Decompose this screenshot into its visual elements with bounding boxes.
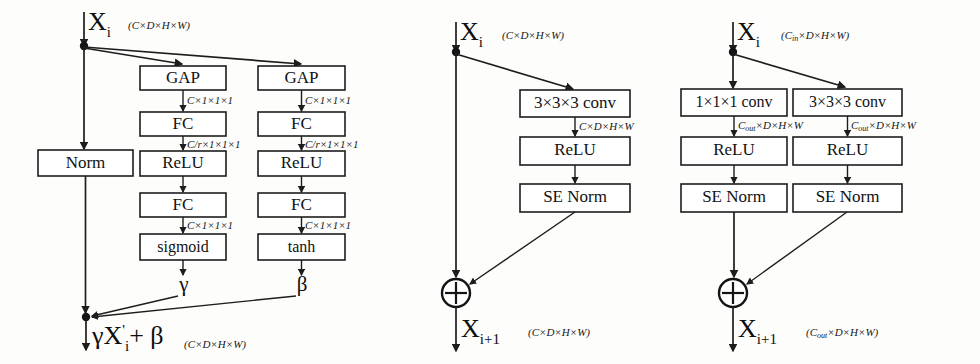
- beta-block-gap-label: GAP: [284, 68, 318, 87]
- gamma-symbol: γ: [178, 272, 188, 296]
- panel-residual-identity: Xi (C×D×H×W) 3×3×3 conv C×D×H×W ReLU SE …: [442, 17, 634, 351]
- panel2-fanout-edge: [456, 54, 573, 89]
- panel2-output-symbol: Xi+1: [461, 314, 500, 347]
- figure-root: Xi (C×D×H×W) Norm GAP C×1×1×1 FC C/r×1×1…: [0, 0, 980, 364]
- fanout-to-beta: [84, 47, 301, 64]
- panel3-block-relu-right-label: ReLU: [827, 140, 869, 159]
- gamma-block-sigmoid-label: sigmoid: [157, 238, 209, 256]
- gamma-edge-4-label: C×1×1×1: [187, 219, 233, 231]
- beta-block-fc2-label: FC: [291, 195, 312, 214]
- panel1-output-expr: γX'i+ β: [91, 321, 164, 354]
- beta-block-relu-label: ReLU: [281, 153, 323, 172]
- panel1-output-dims: (C×D×H×W): [184, 338, 246, 351]
- panel2-block-relu-label: ReLU: [554, 140, 596, 159]
- diagram-canvas: Xi (C×D×H×W) Norm GAP C×1×1×1 FC C/r×1×1…: [0, 0, 980, 364]
- beta-block-tanh-label: tanh: [288, 238, 316, 255]
- beta-edge-4-label: C×1×1×1: [305, 219, 351, 231]
- panel3-block-conv3-label: 3×3×3 conv: [809, 93, 886, 110]
- panel3-block-senorm-left-label: SE Norm: [702, 187, 766, 206]
- gamma-block-fc1-label: FC: [173, 114, 194, 133]
- panel3-block-conv1-label: 1×1×1 conv: [695, 93, 772, 110]
- panel3-block-senorm-right-label: SE Norm: [816, 187, 880, 206]
- panel1-input-dims: (C×D×H×W): [128, 19, 190, 32]
- beta-edge-2-label: C/r×1×1×1: [305, 138, 358, 150]
- panel3-right-merge-edge: [747, 212, 847, 284]
- gamma-edge-1-label: C×1×1×1: [187, 94, 233, 106]
- panel-residual-projection: Xi (Cin×D×H×W) 1×1×1 conv Cout×D×H×W ReL…: [681, 17, 917, 351]
- panel3-fanout-edge: [733, 54, 845, 87]
- panel3-right-edge-1-label: Cout×D×H×W: [851, 119, 917, 133]
- panel2-edge-1-label: C×D×H×W: [579, 120, 634, 132]
- panel2-block-conv3-label: 3×3×3 conv: [534, 93, 616, 112]
- gamma-edge-2-label: C/r×1×1×1: [187, 138, 240, 150]
- panel2-merge-edge: [470, 212, 575, 284]
- beta-merge-edge: [92, 296, 296, 317]
- panel-se-norm: Xi (C×D×H×W) Norm GAP C×1×1×1 FC C/r×1×1…: [38, 7, 358, 354]
- panel3-input-symbol: Xi: [737, 17, 760, 50]
- panel3-block-relu-left-label: ReLU: [713, 140, 755, 159]
- panel1-input-symbol: Xi: [88, 7, 111, 40]
- panel3-left-edge-1-label: Cout×D×H×W: [738, 119, 804, 133]
- gamma-block-fc2-label: FC: [173, 195, 194, 214]
- panel2-input-dims: (C×D×H×W): [502, 29, 564, 42]
- panel3-output-symbol: Xi+1: [738, 314, 777, 347]
- gamma-block-gap-label: GAP: [166, 68, 200, 87]
- beta-symbol: β: [297, 272, 308, 296]
- block-norm-label: Norm: [66, 153, 106, 172]
- panel3-output-dims: (Cout×D×H×W): [806, 326, 879, 340]
- gamma-block-relu-label: ReLU: [162, 153, 204, 172]
- beta-edge-1-label: C×1×1×1: [305, 94, 351, 106]
- beta-block-fc1-label: FC: [291, 114, 312, 133]
- panel2-output-dims: (C×D×H×W): [528, 326, 590, 339]
- panel3-input-dims: (Cin×D×H×W): [781, 29, 850, 43]
- panel2-block-senorm-label: SE Norm: [543, 187, 607, 206]
- panel2-input-symbol: Xi: [460, 17, 483, 50]
